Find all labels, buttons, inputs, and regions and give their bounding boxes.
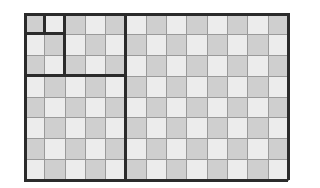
grid-cell [247,97,268,119]
grid-cell [24,97,45,119]
grid-cell [146,55,167,77]
rectangle-border [124,13,127,180]
grid-cell [146,138,167,160]
grid-cell [207,117,228,139]
grid-cell [207,97,228,119]
grid-cell [85,13,106,35]
grid-cell [126,76,147,98]
grid-cell [126,13,147,35]
grid-cell [146,13,167,35]
grid-cell [65,76,86,98]
grid-cell [44,138,65,160]
grid-cell [186,55,207,77]
grid-cell [186,13,207,35]
grid-cell [227,34,248,56]
grid-cell [186,76,207,98]
grid-cell [227,97,248,119]
grid-cell [186,117,207,139]
grid-cell [186,97,207,119]
grid-cell [166,34,187,56]
rectangle-border [43,13,46,34]
grid-cell [227,138,248,160]
grid-cell [247,117,268,139]
grid-cell [247,55,268,77]
grid-cell [65,13,86,35]
grid-cell [24,138,45,160]
grid-cell [227,55,248,77]
rectangle-border [63,13,66,76]
grid-cell [85,97,106,119]
grid-cell [227,13,248,35]
rectangle-border [24,74,126,77]
grid-cell [247,34,268,56]
grid-cell [207,34,228,56]
grid-cell [166,13,187,35]
grid-cell [65,117,86,139]
grid-cell [24,76,45,98]
grid-cell [166,138,187,160]
grid-cell [186,138,207,160]
grid-cell [126,138,147,160]
grid-cell [207,13,228,35]
grid-cell [166,76,187,98]
grid-cell [65,34,86,56]
grid-cell [247,13,268,35]
rectangle-border [24,13,288,16]
grid-cell [207,55,228,77]
grid-cell [24,117,45,139]
grid-cell [186,34,207,56]
grid-cell [227,76,248,98]
grid-cell [126,34,147,56]
grid-cell [146,117,167,139]
rectangle-border [24,32,65,35]
grid-cell [24,34,45,56]
grid-cell [166,117,187,139]
grid-cell [146,34,167,56]
grid-cell [85,76,106,98]
rectangle-border [287,13,290,180]
grid-cell [65,97,86,119]
grid-cell [207,76,228,98]
grid-cell [126,55,147,77]
grid-cell [166,55,187,77]
grid-cell [227,117,248,139]
grid-cell [85,117,106,139]
grid-cell [146,97,167,119]
grid-cell [247,76,268,98]
grid-cell [166,97,187,119]
grid-cell [44,117,65,139]
grid-cell [247,138,268,160]
grid-cell [126,117,147,139]
rectangle-border [24,179,288,182]
grid-cell [44,76,65,98]
rectangle-border [24,13,27,180]
grid-cell [65,138,86,160]
grid-cell [146,76,167,98]
grid-cell [207,138,228,160]
grid-cell [44,97,65,119]
grid-cell [85,34,106,56]
grid-cell [126,97,147,119]
checkered-grid [24,13,288,180]
grid-cell [85,138,106,160]
